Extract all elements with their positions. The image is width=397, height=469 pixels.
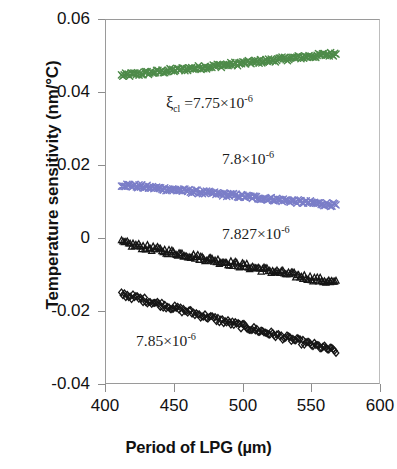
- annotation-body: 7.8×10: [222, 150, 266, 167]
- y-tick-5: -0.04: [28, 374, 90, 394]
- annotation-exponent: -6: [244, 93, 253, 104]
- y-tick-mark: [98, 311, 105, 312]
- y-tick-mark: [98, 238, 105, 239]
- y-tick-0: 0.06: [28, 9, 90, 29]
- x-tick-mark: [174, 384, 175, 392]
- y-tick-mark: [98, 384, 105, 385]
- y-tick-mark: [98, 19, 105, 20]
- chart-figure: Temperature sensitivity (nm/°C) 0.06 0.0…: [0, 0, 397, 469]
- y-tick-mark: [98, 165, 105, 166]
- x-tick-mark: [243, 384, 244, 392]
- x-axis-title: Period of LPG (µm): [0, 438, 397, 457]
- y-tick-label: 0: [28, 228, 90, 248]
- y-tick-4: -0.02: [28, 301, 90, 321]
- x-tick-label: 450: [139, 396, 209, 416]
- y-tick-1: 0.04: [28, 82, 90, 102]
- annotation-body: =7.75×10: [180, 94, 244, 111]
- data-canvas: [105, 19, 380, 384]
- annotation-exponent: -6: [187, 331, 196, 342]
- annotation-body: 7.827×10: [222, 225, 281, 242]
- series-annotation-2: 7.8×10-6: [222, 151, 274, 167]
- x-tick-mark: [105, 384, 106, 392]
- y-tick-3: 0: [28, 228, 90, 248]
- data-series: [118, 181, 339, 209]
- x-tick-label: 600: [345, 396, 397, 416]
- x-tick-mark: [311, 384, 312, 392]
- series-annotation-1: ξcl =7.75×10-6: [166, 95, 253, 112]
- x-tick-label: 400: [70, 396, 140, 416]
- x-tick-mark: [380, 384, 381, 392]
- annotation-exponent: -6: [266, 149, 275, 160]
- plot-area: [105, 19, 380, 384]
- data-series: [118, 50, 339, 80]
- y-tick-2: 0.02: [28, 155, 90, 175]
- y-tick-label: -0.02: [28, 301, 90, 321]
- x-tick-label: 550: [276, 396, 346, 416]
- y-tick-label: 0.02: [28, 155, 90, 175]
- annotation-exponent: -6: [281, 224, 290, 235]
- y-tick-label: 0.06: [28, 9, 90, 29]
- series-annotation-3: 7.827×10-6: [222, 226, 290, 242]
- x-tick-label: 500: [208, 396, 278, 416]
- y-tick-label: -0.04: [28, 374, 90, 394]
- annotation-body: 7.85×10: [136, 332, 187, 349]
- series-annotation-4: 7.85×10-6: [136, 333, 196, 349]
- y-tick-mark: [98, 92, 105, 93]
- data-series: [118, 237, 339, 285]
- y-tick-label: 0.04: [28, 82, 90, 102]
